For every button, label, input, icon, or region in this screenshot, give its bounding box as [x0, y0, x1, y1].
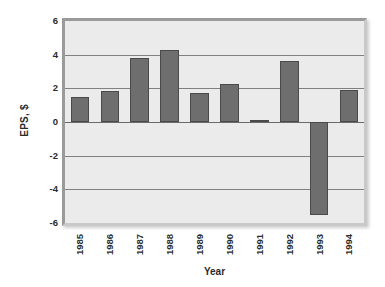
x-axis-tick-label-text: 1986	[104, 234, 115, 255]
x-axis-tick-label: 1985	[65, 228, 95, 264]
y-axis-tick-label: 0	[53, 116, 58, 127]
bars-layer	[65, 21, 364, 223]
x-axis-tick-label: 1994	[334, 228, 364, 264]
x-axis-title: Year	[65, 266, 364, 277]
y-axis-tick-label: 2	[53, 82, 58, 93]
x-axis-tick-label-text: 1990	[224, 234, 235, 255]
x-axis-tick-label-text: 1985	[74, 234, 85, 255]
plot-area	[65, 21, 364, 223]
bar	[220, 84, 239, 122]
bar	[310, 122, 329, 215]
y-axis-tick-label: -4	[50, 183, 58, 194]
y-axis-title-text: EPS, $	[19, 104, 30, 136]
bar	[71, 97, 90, 122]
bar-chart: EPS, $ 6420-2-4-6 1985198619871988198919…	[0, 0, 385, 287]
bar	[130, 58, 149, 122]
y-axis-title: EPS, $	[10, 0, 38, 240]
y-axis-tick-label: 6	[53, 15, 58, 26]
y-axis-tick-labels: 6420-2-4-6	[38, 20, 62, 224]
x-axis-tick-label-text: 1991	[254, 234, 265, 255]
x-axis-tick-label: 1986	[95, 228, 125, 264]
y-axis-tick-label: 4	[53, 48, 58, 59]
bar	[160, 50, 179, 122]
x-axis-tick-label: 1990	[215, 228, 245, 264]
x-axis-tick-label: 1991	[244, 228, 274, 264]
y-axis-tick-label: -6	[50, 217, 58, 228]
y-axis-tick-label: -2	[50, 149, 58, 160]
x-axis-tick-label: 1988	[155, 228, 185, 264]
x-axis-tick-label: 1992	[274, 228, 304, 264]
x-axis-tick-label-text: 1989	[194, 234, 205, 255]
bar	[101, 91, 120, 122]
x-axis-tick-labels: 1985198619871988198919901991199219931994	[65, 228, 364, 264]
x-axis-tick-label: 1993	[304, 228, 334, 264]
x-axis-tick-label-text: 1993	[314, 234, 325, 255]
x-axis-tick-label: 1987	[125, 228, 155, 264]
bar	[340, 90, 359, 122]
x-axis-tick-label-text: 1987	[134, 234, 145, 255]
x-axis-tick-label-text: 1992	[284, 234, 295, 255]
x-axis-tick-label-text: 1988	[164, 234, 175, 255]
x-axis-tick-label-text: 1994	[344, 234, 355, 255]
bar	[280, 61, 299, 122]
x-axis-tick-label: 1989	[185, 228, 215, 264]
bar	[250, 120, 269, 122]
bar	[190, 93, 209, 122]
